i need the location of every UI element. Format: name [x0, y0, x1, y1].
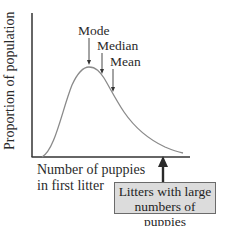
- mode-arrow-icon: [87, 38, 91, 65]
- distribution-curve: [42, 67, 183, 157]
- median-arrow-icon: [100, 53, 104, 74]
- mean-arrow-icon: [111, 69, 115, 92]
- mode-label: Mode: [78, 24, 110, 38]
- callout-line2: numbers of puppies: [115, 199, 215, 226]
- y-axis-label: Proportion of population: [3, 12, 17, 150]
- median-label: Median: [97, 39, 138, 53]
- skewed-distribution-diagram: Proportion of population Number of puppi…: [0, 0, 227, 226]
- tail-arrow-icon: [158, 156, 168, 182]
- tail-callout-box: Litters with large numbers of puppies: [114, 182, 216, 214]
- x-axis-label-line1: Number of puppies: [37, 162, 145, 178]
- callout-line1: Litters with large: [115, 184, 215, 199]
- mean-label: Mean: [110, 55, 141, 69]
